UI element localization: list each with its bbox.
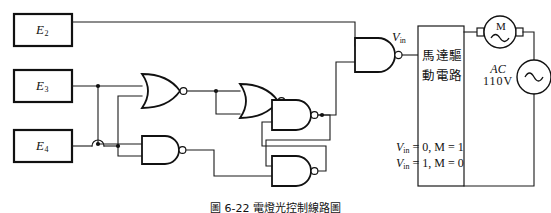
- junction-e3-down: [96, 142, 100, 146]
- nand-latch-lower: [272, 156, 318, 186]
- motor-driver-label-line1: 馬達驅: [422, 50, 463, 63]
- truth-row-2: Vin = 1, M = 0: [396, 157, 464, 169]
- wire-motor-to-ac: [523, 32, 534, 60]
- wire-ac-return: [464, 94, 534, 186]
- wire-e4-to-nand-lower: [118, 146, 142, 156]
- wire-latch-to-output-nand: [318, 62, 355, 115]
- motor-symbol-label: M: [496, 21, 506, 32]
- nor-gate-1: [142, 74, 187, 108]
- motor-driver-label-line2: 動電路: [422, 70, 463, 83]
- wire-e2-to-output-nand: [72, 22, 355, 46]
- wire-e4-riser: [118, 96, 142, 146]
- circuit-schematic: [0, 0, 551, 213]
- junction-e4: [116, 144, 120, 148]
- wire-nor2-lower-input-loop: [216, 91, 240, 114]
- ac-voltage-label: 110V: [479, 75, 517, 87]
- nand-gate-lower-input: [142, 136, 186, 164]
- input-box-e2-label: E2: [36, 23, 48, 36]
- input-box-e4-label: E4: [36, 139, 48, 152]
- ac-source-label: AC 110V: [479, 63, 517, 87]
- junction-e3: [96, 84, 100, 88]
- input-box-e3-label: E3: [36, 79, 48, 92]
- vin-signal-label: Vin: [392, 31, 406, 44]
- motor-terminal-right: [516, 28, 523, 36]
- circuit-figure: E2 E3 E4 Vin 馬達驅 動電路 M AC 110V Vin = 0, …: [0, 0, 551, 213]
- wire-nandlower-to-latch-lower: [186, 150, 272, 176]
- nand-latch-upper: [272, 100, 318, 130]
- junction-latch-upper-out: [320, 113, 324, 117]
- truth-row-1: Vin = 0, M = 1: [396, 141, 464, 153]
- motor-terminal-left: [477, 28, 484, 36]
- figure-caption: 圖 6-22 電燈光控制線路圖: [0, 199, 551, 213]
